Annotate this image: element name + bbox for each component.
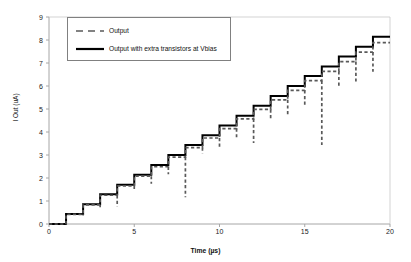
dashed-line-swatch-icon: [75, 26, 105, 36]
legend-label-output: Output: [109, 27, 129, 35]
solid-line-swatch-icon: [75, 44, 105, 54]
y-tick-label-7: 7: [28, 60, 43, 67]
legend-label-output-extra-transistors: Output with extra transistors at Vbias: [109, 45, 217, 53]
x-tick-label-15: 15: [291, 228, 319, 235]
x-tick-label-0: 0: [35, 228, 63, 235]
y-tick-label-2: 2: [28, 175, 43, 182]
legend-item-output[interactable]: Output: [75, 25, 129, 37]
x-axis-tick-labels: 05101520: [0, 228, 411, 238]
y-tick-label-6: 6: [28, 83, 43, 90]
y-tick-label-0: 0: [28, 221, 43, 228]
x-tick-label-20: 20: [376, 228, 404, 235]
y-axis-title: I Out (uA): [12, 73, 19, 143]
x-tick-label-10: 10: [206, 228, 234, 235]
x-tick-label-5: 5: [120, 228, 148, 235]
x-axis-title: Time (µs): [0, 247, 411, 255]
y-tick-label-5: 5: [28, 106, 43, 113]
chart-figure: 0123456789 05101520 I Out (uA) Time (µs)…: [0, 0, 411, 262]
y-tick-label-9: 9: [28, 14, 43, 21]
y-tick-label-4: 4: [28, 129, 43, 136]
y-tick-label-8: 8: [28, 37, 43, 44]
legend-item-output-extra-transistors[interactable]: Output with extra transistors at Vbias: [75, 43, 217, 55]
y-tick-label-3: 3: [28, 152, 43, 159]
chart-legend: Output Output with extra transistors at …: [67, 17, 231, 61]
y-tick-label-1: 1: [28, 198, 43, 205]
